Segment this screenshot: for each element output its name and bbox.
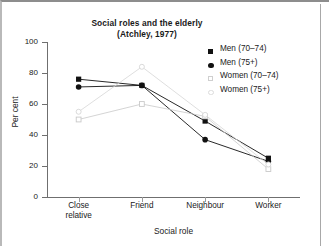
chart-figure: Social roles and the elderly (Atchley, 1… [2,2,329,246]
series-3 [76,64,271,167]
data-point-marker [203,112,208,117]
data-point-marker [76,84,82,90]
data-point-marker [139,64,144,69]
chart-series-layer [2,2,329,246]
data-point-marker [266,162,271,167]
data-point-marker [76,77,81,82]
data-point-marker [139,83,145,89]
image-frame: Social roles and the elderly (Atchley, 1… [0,0,329,246]
series-0 [76,77,271,161]
data-point-marker [202,137,208,143]
data-point-marker [266,167,271,172]
series-line [79,85,269,161]
data-point-marker [76,117,81,122]
series-line [79,104,269,169]
data-point-marker [139,102,144,107]
series-line [79,67,269,165]
data-point-marker [76,109,81,114]
series-1 [76,83,271,165]
